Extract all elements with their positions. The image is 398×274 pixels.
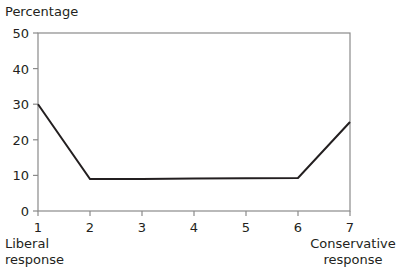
x-tick-label: 4 (190, 220, 198, 235)
y-axis-ticks: 01020304050 (12, 26, 38, 219)
x-axis-ticks: 1234567 (34, 211, 354, 235)
y-tick-label: 30 (12, 97, 29, 112)
y-tick-label: 40 (12, 62, 29, 77)
y-tick-label: 0 (21, 204, 29, 219)
y-tick-label: 20 (12, 133, 29, 148)
x-tick-label: 7 (346, 220, 354, 235)
plot-frame (38, 33, 350, 211)
line-chart: Percentage 01020304050 1234567 Liberalre… (0, 0, 398, 274)
chart-canvas: Percentage 01020304050 1234567 Liberalre… (0, 0, 398, 274)
x-end-label-right: response (323, 252, 382, 267)
x-end-label-left: Liberal (5, 236, 49, 251)
x-end-label-right: Conservative (310, 236, 395, 251)
x-tick-label: 1 (34, 220, 42, 235)
x-end-label-left: response (5, 252, 64, 267)
data-line (38, 104, 350, 179)
y-tick-label: 50 (12, 26, 29, 41)
y-axis-label: Percentage (5, 4, 78, 19)
x-tick-label: 2 (86, 220, 94, 235)
x-tick-label: 5 (242, 220, 250, 235)
x-tick-label: 6 (294, 220, 302, 235)
y-tick-label: 10 (12, 168, 29, 183)
x-tick-label: 3 (138, 220, 146, 235)
x-axis-end-labels: LiberalresponseConservativeresponse (5, 236, 396, 267)
